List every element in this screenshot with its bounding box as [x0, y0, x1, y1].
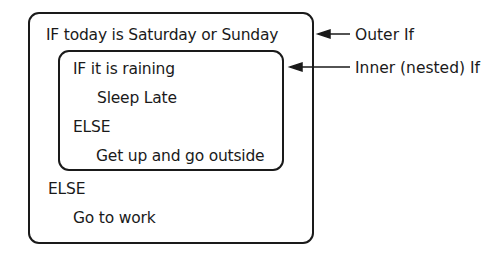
- inner-if-arrowhead-icon: [290, 63, 302, 71]
- outer-if-label: Outer If: [355, 26, 414, 44]
- annotation-arrows: [0, 0, 499, 254]
- inner-if-label: Inner (nested) If: [355, 59, 480, 77]
- outer-if-arrowhead-icon: [318, 30, 330, 38]
